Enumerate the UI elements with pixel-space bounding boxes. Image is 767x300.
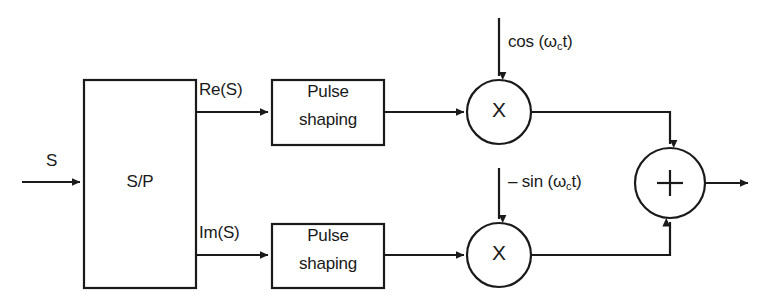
cos-carrier-omega: ω [544, 32, 557, 51]
sin-carrier-label: – sin (ωct) [508, 173, 581, 193]
block-diagram: S S/P Re(S) Pulse shaping X cos (ωct) Im… [0, 0, 767, 300]
sin-carrier-omega: ω [553, 172, 566, 191]
quadrature-to-summer-path [531, 222, 670, 255]
cos-carrier-label: cos (ωct) [508, 33, 572, 53]
pulse-shaping-label-inphase-line2: shaping [272, 111, 384, 129]
im-signal-label: Im(S) [199, 224, 240, 242]
pulse-shaping-label-inphase-line1: Pulse [272, 83, 384, 101]
serial-to-parallel-label: S/P [84, 173, 196, 191]
input-signal-label: S [46, 152, 57, 170]
pulse-shaping-label-quadrature-line1: Pulse [272, 227, 384, 245]
cos-carrier-prefix: cos ( [508, 32, 544, 51]
mixer-label-inphase: X [467, 99, 531, 121]
re-signal-label: Re(S) [199, 81, 242, 99]
inphase-to-summer-path [531, 112, 670, 144]
cos-carrier-suffix: t) [562, 32, 572, 51]
pulse-shaping-label-quadrature-line2: shaping [272, 255, 384, 273]
mixer-label-quadrature: X [467, 242, 531, 264]
sin-carrier-prefix: – sin ( [508, 172, 553, 191]
sin-carrier-suffix: t) [571, 172, 581, 191]
